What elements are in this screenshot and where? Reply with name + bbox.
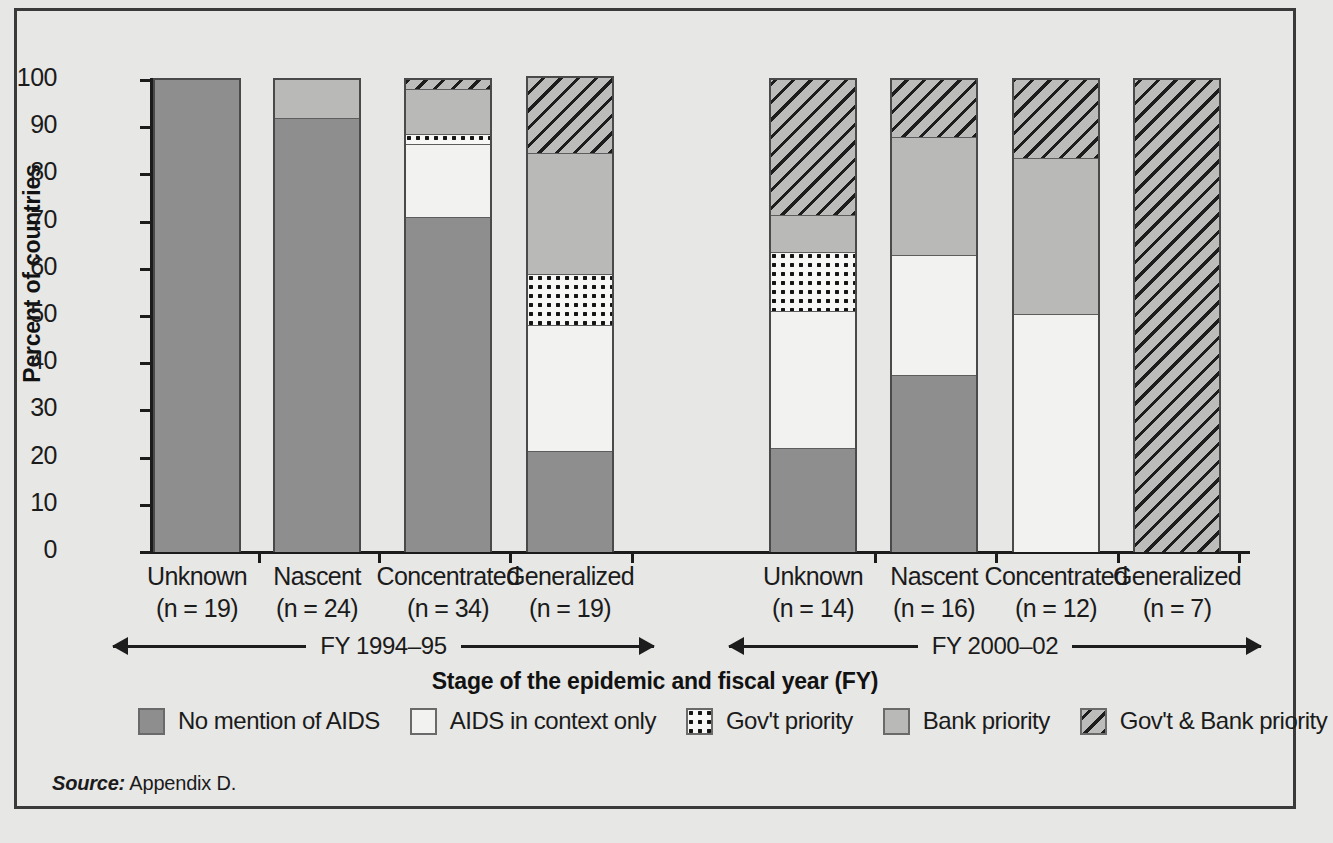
legend-swatch-diagonal-hatch-icon bbox=[1080, 708, 1107, 735]
bar-segment-none bbox=[155, 80, 239, 552]
bar-segment-context bbox=[406, 144, 490, 217]
bar-segment-bank bbox=[892, 137, 976, 255]
category-name: Unknown bbox=[147, 562, 247, 590]
bar-segment-bank bbox=[406, 89, 490, 134]
bar-segment-context bbox=[528, 325, 612, 450]
bar-segment-none bbox=[406, 217, 490, 552]
category-name: Generalized bbox=[1113, 562, 1241, 590]
bar-segment-both bbox=[528, 78, 612, 154]
x-tick-mark-7 bbox=[1238, 551, 1241, 563]
bar-generalized-fy1994-95[interactable] bbox=[526, 76, 614, 552]
y-tick-label-10: 10 bbox=[0, 488, 57, 517]
category-name: Generalized bbox=[506, 562, 634, 590]
y-tick-label-60: 60 bbox=[0, 252, 57, 281]
y-tick-label-20: 20 bbox=[0, 441, 57, 470]
legend-swatch-solid-dark-gray-icon bbox=[138, 708, 165, 735]
bar-nascent-fy1994-95[interactable] bbox=[273, 78, 361, 552]
category-count: (n = 19) bbox=[486, 592, 654, 624]
source-note: Source: Appendix D. bbox=[52, 772, 236, 795]
bar-segment-bank bbox=[1014, 158, 1098, 314]
legend-label: AIDS in context only bbox=[450, 707, 656, 735]
bar-unknown-fy2000-02[interactable] bbox=[769, 78, 857, 552]
bar-segment-gov bbox=[528, 274, 612, 326]
y-tick-label-90: 90 bbox=[0, 110, 57, 139]
left-arrow-icon bbox=[113, 645, 306, 648]
legend-item-both[interactable]: Gov't & Bank priority bbox=[1080, 707, 1328, 735]
bar-concentrated-fy1994-95[interactable] bbox=[404, 78, 492, 552]
group-label: FY 1994–95 bbox=[306, 632, 460, 660]
y-tick-label-80: 80 bbox=[0, 157, 57, 186]
right-arrow-icon bbox=[461, 645, 654, 648]
bar-segment-none bbox=[892, 375, 976, 552]
bar-concentrated-fy2000-02[interactable] bbox=[1012, 78, 1100, 552]
bar-segment-both bbox=[1135, 80, 1219, 552]
chart-legend: No mention of AIDSAIDS in context onlyGo… bbox=[138, 707, 1333, 735]
bar-segment-both bbox=[771, 80, 855, 215]
frame-border-top bbox=[14, 8, 1296, 11]
frame-border-bottom bbox=[14, 806, 1296, 809]
left-arrow-icon bbox=[729, 645, 918, 648]
legend-item-bank[interactable]: Bank priority bbox=[883, 707, 1050, 735]
bar-generalized-fy2000-02[interactable] bbox=[1133, 78, 1221, 552]
bar-segment-none bbox=[771, 448, 855, 552]
legend-item-none[interactable]: No mention of AIDS bbox=[138, 707, 380, 735]
bar-segment-bank bbox=[528, 153, 612, 273]
source-text: Appendix D. bbox=[125, 772, 236, 794]
group-span-0: FY 1994–95 bbox=[113, 631, 654, 661]
bar-segment-bank bbox=[275, 80, 359, 118]
y-tick-label-70: 70 bbox=[0, 205, 57, 234]
source-label: Source: bbox=[52, 772, 125, 794]
y-tick-label-50: 50 bbox=[0, 299, 57, 328]
bar-segment-both bbox=[406, 80, 490, 89]
y-tick-label-100: 100 bbox=[0, 63, 57, 92]
bar-segment-gov bbox=[406, 134, 490, 143]
bar-segment-context bbox=[892, 255, 976, 375]
bar-segment-gov bbox=[771, 252, 855, 311]
right-arrow-icon bbox=[1072, 645, 1261, 648]
bar-segment-none bbox=[275, 118, 359, 552]
legend-swatch-solid-white-icon bbox=[410, 708, 437, 735]
category-name: Unknown bbox=[763, 562, 863, 590]
y-tick-label-40: 40 bbox=[0, 346, 57, 375]
category-name: Nascent bbox=[890, 562, 978, 590]
x-tick-mark-2 bbox=[509, 551, 512, 563]
legend-label: Bank priority bbox=[923, 707, 1050, 735]
legend-item-context[interactable]: AIDS in context only bbox=[410, 707, 656, 735]
category-count: (n = 7) bbox=[1093, 592, 1261, 624]
bar-segment-context bbox=[771, 311, 855, 448]
x-tick-mark-4 bbox=[874, 551, 877, 563]
x-tick-label-3: Generalized(n = 19) bbox=[486, 560, 654, 624]
bar-nascent-fy2000-02[interactable] bbox=[890, 78, 978, 552]
legend-label: Gov't & Bank priority bbox=[1120, 707, 1328, 735]
x-tick-mark-6 bbox=[1117, 551, 1120, 563]
legend-item-gov[interactable]: Gov't priority bbox=[686, 707, 853, 735]
category-name: Nascent bbox=[273, 562, 361, 590]
x-tick-mark-1 bbox=[378, 551, 381, 563]
x-tick-mark-5 bbox=[995, 551, 998, 563]
y-tick-label-0: 0 bbox=[0, 535, 57, 564]
y-tick-label-30: 30 bbox=[0, 393, 57, 422]
plot-area bbox=[153, 80, 1249, 552]
x-tick-label-7: Generalized(n = 7) bbox=[1093, 560, 1261, 624]
x-axis-title: Stage of the epidemic and fiscal year (F… bbox=[0, 668, 1310, 695]
legend-swatch-dotted-grid-icon bbox=[686, 708, 713, 735]
group-span-1: FY 2000–02 bbox=[729, 631, 1261, 661]
group-label: FY 2000–02 bbox=[918, 632, 1072, 660]
legend-swatch-solid-light-gray-icon bbox=[883, 708, 910, 735]
x-tick-mark-0 bbox=[258, 551, 261, 563]
x-tick-mark-3 bbox=[631, 551, 634, 563]
bar-segment-both bbox=[1014, 80, 1098, 158]
legend-label: Gov't priority bbox=[726, 707, 853, 735]
bar-segment-both bbox=[892, 80, 976, 137]
bar-segment-bank bbox=[771, 215, 855, 253]
legend-label: No mention of AIDS bbox=[178, 707, 380, 735]
bar-segment-none bbox=[528, 451, 612, 552]
bar-segment-context bbox=[1014, 314, 1098, 552]
bar-unknown-fy1994-95[interactable] bbox=[153, 78, 241, 552]
